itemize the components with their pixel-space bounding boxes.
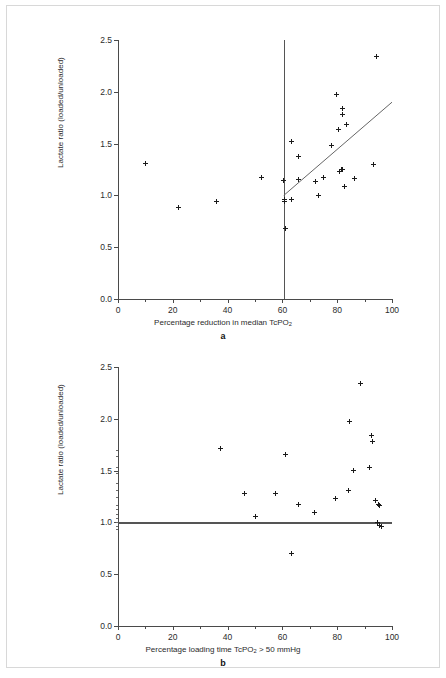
panel-b-x-tick-label: 40 [223, 632, 232, 642]
panel-b-y-tick [114, 471, 118, 472]
panel-a-x-tick-label: 0 [116, 305, 121, 315]
panel-b-y-tick-minor [116, 490, 118, 491]
panel-b-x-tick-label: 60 [278, 632, 287, 642]
panel-a-plot-area: 0.00.51.01.52.02.5020406080100 [118, 40, 392, 299]
panel-a-regression-line [118, 40, 392, 299]
panel-a-x-tick [118, 299, 119, 303]
panel-b-y-tick-label: 1.0 [100, 517, 112, 527]
panel-b-data-point [351, 468, 356, 473]
panel-b-y-tick-minor [116, 509, 118, 510]
panel-b-data-point [346, 488, 351, 493]
panel-b-data-point [289, 551, 294, 556]
panel-b-data-point [333, 496, 338, 501]
panel-b-data-point [312, 510, 317, 515]
panel-b-y-axis-title: Lactate ratio (loaded/unloaded) [56, 384, 65, 495]
panel-b-x-tick [392, 626, 393, 630]
panel-b-letter: b [0, 658, 446, 668]
panel-a-x-tick [392, 299, 393, 303]
panel-b-data-point [376, 502, 381, 507]
panel-a-y-axis-title: Lactate ratio (loaded/unloaded) [56, 57, 65, 168]
panel-a-x-tick-label: 80 [332, 305, 341, 315]
panel-b-x-tick-minor [310, 626, 311, 629]
panel-a-x-tick [282, 299, 283, 303]
panel-a-x-tick-label: 40 [223, 305, 232, 315]
panel-b-y-tick-label: 2.5 [100, 362, 112, 372]
panel-b-data-point [370, 439, 375, 444]
panel-a-letter: a [0, 331, 446, 341]
panel-b-x-tick [118, 626, 119, 630]
panel-a-y-tick-label: 2.5 [100, 35, 112, 45]
panel-a-x-tick [228, 299, 229, 303]
panel-b-y-axis-line [118, 367, 119, 626]
panel-a-y-tick-label: 0.0 [100, 294, 112, 304]
panel-b-horizontal-reference-line [118, 522, 392, 524]
panel-a-x-tick-label: 60 [278, 305, 287, 315]
panel-b-data-point [283, 452, 288, 457]
panel-b-y-tick-minor [116, 467, 118, 468]
panel-a-x-tick-minor [310, 299, 311, 302]
panel-a-x-tick [173, 299, 174, 303]
panel-a-y-tick-label: 0.5 [100, 242, 112, 252]
panel-b-x-tick [337, 626, 338, 630]
panel-b: Lactate ratio (loaded/unloaded) 0.00.51.… [0, 345, 446, 665]
panel-b-y-tick-minor [116, 456, 118, 457]
panel-b-x-tick-label: 100 [385, 632, 399, 642]
panel-b-x-tick-minor [145, 626, 146, 629]
panel-b-data-point [367, 465, 372, 470]
panel-b-y-tick-minor [116, 514, 118, 515]
panel-a-x-tick-minor [255, 299, 256, 302]
panel-b-x-tick-minor [365, 626, 366, 629]
panel-b-data-point [273, 491, 278, 496]
panel-b-y-tick [114, 574, 118, 575]
panel-b-x-tick [173, 626, 174, 630]
panel-b-y-tick-label: 0.0 [100, 621, 112, 631]
panel-b-data-point [347, 419, 352, 424]
panel-b-data-point [369, 433, 374, 438]
panel-a-y-tick-label: 1.0 [100, 190, 112, 200]
panel-b-x-tick-label: 80 [332, 632, 341, 642]
panel-b-y-tick-label: 0.5 [100, 569, 112, 579]
panel-a-x-axis-title-pre: Percentage reduction in median TcPO [154, 318, 289, 327]
panel-b-data-point [253, 514, 258, 519]
panel-a-x-tick-label: 100 [385, 305, 399, 315]
panel-b-data-point [218, 446, 223, 451]
panel-b-data-point [242, 491, 247, 496]
panel-b-y-tick-minor [116, 483, 118, 484]
panel-b-plot-area: 0.00.51.01.52.02.5020406080100 [118, 367, 392, 626]
panel-b-y-tick-label: 2.0 [100, 414, 112, 424]
panel-b-x-tick [282, 626, 283, 630]
panel-b-data-point [358, 381, 363, 386]
panel-b-x-tick [228, 626, 229, 630]
panel-b-x-tick-label: 0 [116, 632, 121, 642]
panel-a-y-tick-label: 1.5 [100, 139, 112, 149]
panel-b-x-tick-minor [255, 626, 256, 629]
panel-b-y-tick [114, 419, 118, 420]
panel-b-data-point [377, 503, 382, 508]
panel-b-y-tick-minor [116, 450, 118, 451]
panel-b-y-tick-minor [116, 529, 118, 530]
panel-a-x-tick-minor [145, 299, 146, 302]
panel-a-x-tick-minor [365, 299, 366, 302]
panel-b-y-tick-minor [116, 526, 118, 527]
panel-b-x-axis-title: Percentage loading time TcPO2 > 50 mmHg [0, 645, 446, 654]
panel-a: Lactate ratio (loaded/unloaded) 0.00.51.… [0, 18, 446, 343]
panel-a-x-tick [337, 299, 338, 303]
panel-b-y-tick-minor [116, 497, 118, 498]
panel-b-data-point [296, 502, 301, 507]
panel-a-x-axis-title: Percentage reduction in median TcPO2 [0, 318, 446, 327]
panel-b-y-tick-minor [116, 505, 118, 506]
panel-b-y-tick [114, 367, 118, 368]
panel-b-x-tick-minor [200, 626, 201, 629]
panel-b-x-tick-label: 20 [168, 632, 177, 642]
panel-b-x-axis-title-pre: Percentage loading time TcPO [146, 645, 254, 654]
figure-container: Lactate ratio (loaded/unloaded) 0.00.51.… [0, 0, 446, 678]
panel-a-x-tick-label: 20 [168, 305, 177, 315]
panel-a-x-tick-minor [200, 299, 201, 302]
panel-b-data-point [373, 498, 378, 503]
panel-a-x-axis-title-sub: 2 [289, 321, 292, 327]
panel-b-data-point [379, 524, 384, 529]
panel-b-y-tick-minor [116, 518, 118, 519]
panel-b-y-tick-label: 1.5 [100, 466, 112, 476]
panel-b-x-axis-title-post: > 50 mmHg [257, 645, 301, 654]
panel-b-y-tick-minor [116, 473, 118, 474]
